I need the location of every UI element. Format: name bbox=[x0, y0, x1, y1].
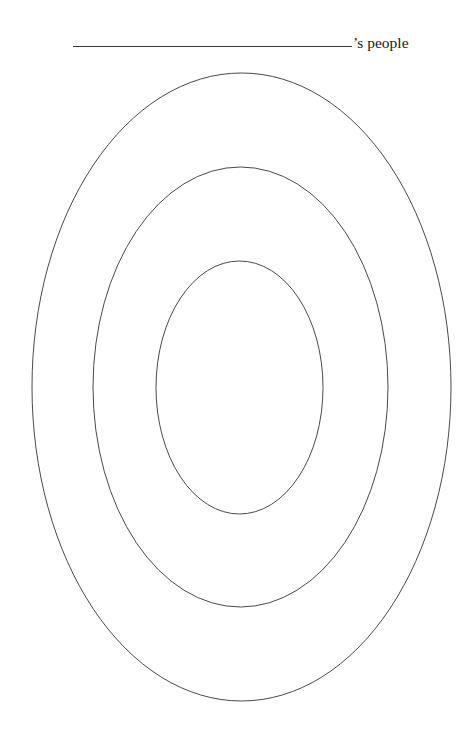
concentric-circles-diagram bbox=[0, 0, 473, 744]
middle-ring bbox=[93, 167, 388, 607]
inner-ring bbox=[156, 261, 323, 514]
